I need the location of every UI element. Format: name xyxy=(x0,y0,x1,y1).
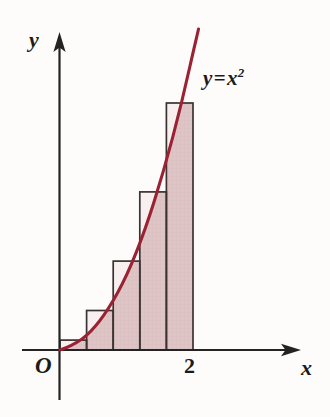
riemann-sum-figure: y x O 2 y=x2 xyxy=(0,0,330,417)
y-axis-label: y xyxy=(29,29,39,51)
curve-equation-exponent: 2 xyxy=(238,65,245,80)
x-axis-label: x xyxy=(301,357,312,379)
origin-label: O xyxy=(35,354,52,377)
x-tick-label-2: 2 xyxy=(184,355,195,377)
curve-equation-y: y xyxy=(203,66,213,90)
curve-equation-equals: = xyxy=(213,66,227,90)
curve-equation-label: y=x2 xyxy=(203,66,245,89)
curve-equation-x: x xyxy=(227,66,238,90)
